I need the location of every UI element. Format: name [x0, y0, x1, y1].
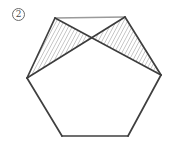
hexagon-edge [27, 78, 62, 136]
figure-number-badge: 2 [12, 8, 25, 21]
hexagon-edge [55, 17, 125, 18]
figure-number: 2 [16, 10, 22, 19]
worksheet-figure: 2 [0, 0, 174, 144]
hexagon-edge [128, 75, 161, 136]
geometry-group [27, 17, 161, 136]
hatched-region [27, 18, 92, 78]
hatched-region [92, 17, 161, 75]
hexagon-diagram [0, 0, 174, 144]
